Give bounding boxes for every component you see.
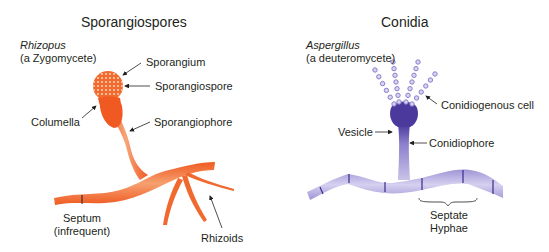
conidium xyxy=(410,102,414,106)
conidium xyxy=(410,80,414,84)
conidium xyxy=(393,73,397,77)
conidiophore xyxy=(398,124,410,180)
label-septum: Septum xyxy=(52,212,112,224)
conidia-chains xyxy=(373,60,437,106)
conidium xyxy=(428,78,432,82)
label-hyphae: Hyphae xyxy=(424,222,474,234)
conidium xyxy=(414,66,418,70)
conidium xyxy=(406,93,410,97)
conidium xyxy=(377,75,381,79)
brace xyxy=(419,198,477,206)
conidium xyxy=(433,72,437,76)
label-sporangiophore: Sporangiophore xyxy=(154,116,232,128)
conidium xyxy=(396,93,400,97)
label-conidiogenous-cell: Conidiogenous cell xyxy=(441,99,534,111)
label-septum-infrequent: (infrequent) xyxy=(52,225,112,237)
conidium xyxy=(412,73,416,77)
conidium xyxy=(419,90,423,94)
label-conidiophore: Conidiophore xyxy=(429,137,494,149)
conidium xyxy=(397,100,401,104)
conidium xyxy=(388,95,392,99)
conidium xyxy=(424,84,428,88)
organism-name-rhizopus: Rhizopus xyxy=(20,39,66,51)
conidium xyxy=(380,81,384,85)
panel-title-conidia: Conidia xyxy=(381,14,428,30)
conidium xyxy=(394,80,398,84)
label-rhizoids: Rhizoids xyxy=(201,232,243,244)
organism-name-aspergillus: Aspergillus xyxy=(306,39,360,51)
conidium xyxy=(392,102,396,106)
label-septate: Septate xyxy=(424,209,474,221)
organism-group-deuteromycete: (a deuteromycete) xyxy=(306,52,395,64)
conidium xyxy=(408,86,412,90)
conidium xyxy=(384,88,388,92)
label-sporangiospore: Sporangiospore xyxy=(155,80,233,92)
conidium xyxy=(404,100,408,104)
conidium xyxy=(416,60,420,64)
panel-title-sporangiospores: Sporangiospores xyxy=(81,14,187,30)
rhizoid xyxy=(185,172,234,191)
label-vesicle: Vesicle xyxy=(338,126,373,138)
conidium xyxy=(392,66,396,70)
arrow-sporangiophore xyxy=(130,122,150,131)
arrow-conidiogenous-cell xyxy=(426,96,437,104)
arrow-rhizoids xyxy=(210,196,222,228)
rhizoid xyxy=(163,178,183,225)
conidium xyxy=(373,68,377,72)
conidium xyxy=(414,96,418,100)
arrow-sporangium xyxy=(123,63,141,75)
aspergillus-illustration xyxy=(307,96,503,206)
conidium xyxy=(395,86,399,90)
organism-group-zygomycete: (a Zygomycete) xyxy=(20,52,96,64)
arrow-columella xyxy=(82,106,96,118)
label-columella: Columella xyxy=(31,116,80,128)
label-sporangium: Sporangium xyxy=(146,56,205,68)
